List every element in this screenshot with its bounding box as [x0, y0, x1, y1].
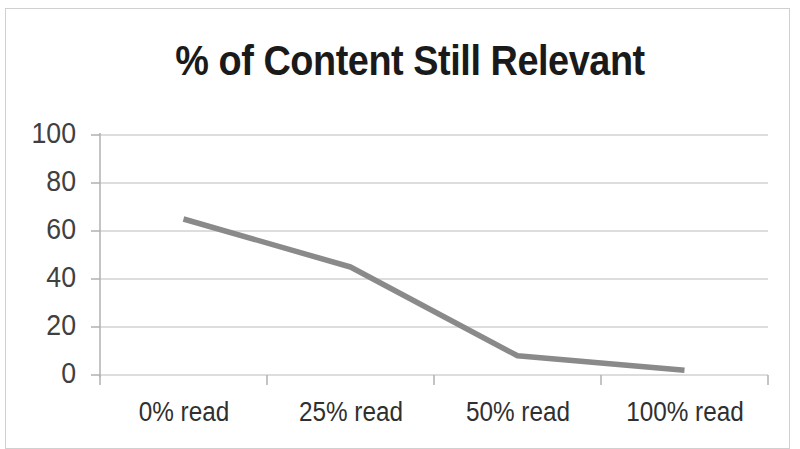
y-axis-tick-label: 40	[19, 261, 76, 294]
y-axis-tick-label: 20	[19, 309, 76, 342]
y-axis-tick-label: 60	[19, 213, 76, 246]
data-series-line	[184, 219, 685, 370]
gridlines	[100, 135, 768, 375]
y-axis-tick-label: 100	[19, 117, 76, 150]
y-axis-tick-label: 80	[19, 165, 76, 198]
chart-figure: % of Content Still Relevant 020406080100…	[0, 0, 800, 449]
x-axis-tick-label: 100% read	[595, 397, 775, 428]
plot-area	[0, 0, 800, 449]
y-axis-ticks	[91, 135, 100, 375]
y-axis-tick-label: 0	[19, 357, 76, 390]
x-axis-tick-label: 0% read	[94, 397, 274, 428]
x-axis-tick-label: 25% read	[261, 397, 441, 428]
x-axis-tick-label: 50% read	[428, 397, 608, 428]
x-axis-ticks	[100, 375, 768, 385]
